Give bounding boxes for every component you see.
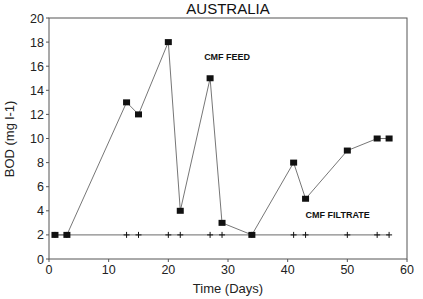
y-tick-label: 2: [37, 228, 44, 242]
plus-marker: [177, 232, 183, 238]
plus-marker: [219, 232, 225, 238]
x-tick-label: 50: [340, 263, 354, 277]
square-marker: [165, 39, 172, 45]
series-label: CMF FEED: [204, 52, 250, 62]
square-marker: [219, 220, 226, 226]
square-marker: [207, 75, 214, 81]
y-tick-label: 8: [37, 156, 44, 170]
plus-marker: [291, 232, 297, 238]
y-tick-label: 6: [37, 180, 44, 194]
square-marker: [302, 196, 309, 202]
x-tick-label: 10: [102, 263, 116, 277]
plus-marker: [207, 232, 213, 238]
y-tick-label: 4: [37, 204, 44, 218]
square-marker: [177, 208, 184, 214]
x-tick-label: 30: [221, 263, 235, 277]
square-marker: [63, 232, 70, 238]
x-tick-label: 60: [400, 263, 414, 277]
x-tick-label: 0: [46, 263, 53, 277]
square-marker: [386, 136, 393, 142]
plus-marker: [165, 232, 171, 238]
bod-chart: AUSTRALIA 010203040506002468101214161820…: [0, 0, 423, 299]
square-marker: [248, 232, 255, 238]
y-tick-label: 10: [30, 132, 44, 146]
y-tick-label: 18: [30, 36, 44, 50]
square-marker: [290, 160, 297, 166]
x-tick-label: 40: [281, 263, 295, 277]
series-label: CMF FILTRATE: [306, 210, 370, 220]
y-tick-label: 12: [30, 108, 44, 122]
plus-marker: [303, 232, 309, 238]
series-line: [55, 42, 389, 235]
series-cmf-feed: CMF FEED: [51, 39, 392, 238]
plus-marker: [344, 232, 350, 238]
y-tick-label: 20: [30, 12, 44, 26]
chart-title: AUSTRALIA: [186, 0, 269, 17]
square-marker: [344, 148, 351, 154]
square-marker: [123, 99, 130, 105]
x-axis-title: Time (Days): [193, 281, 263, 296]
y-tick-label: 0: [37, 253, 44, 267]
square-marker: [374, 136, 381, 142]
x-tick-label: 20: [161, 263, 175, 277]
plus-marker: [386, 232, 392, 238]
plus-marker: [374, 232, 380, 238]
square-marker: [51, 232, 58, 238]
series-layer: CMF FILTRATECMF FEED: [51, 39, 392, 238]
plus-marker: [136, 232, 142, 238]
square-marker: [135, 111, 142, 117]
y-axis-title: BOD (mg l-1): [2, 101, 17, 178]
plus-marker: [124, 232, 130, 238]
y-tick-label: 16: [30, 60, 44, 74]
y-tick-label: 14: [30, 84, 44, 98]
